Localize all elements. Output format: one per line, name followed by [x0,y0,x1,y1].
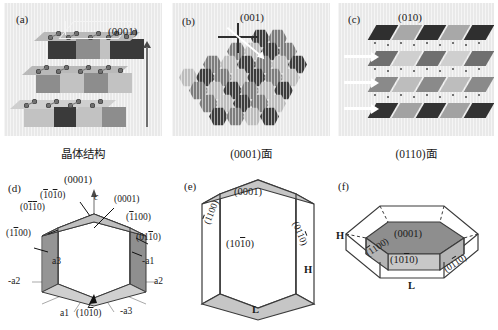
caption-crystal-structure: 晶体结构 [4,145,162,161]
panel-d-label-1010: (1010) [40,190,65,200]
layer-row [372,25,484,40]
panel-e-length-label: L [252,304,259,315]
panel-b-basal-plane: (b) (001) [172,3,330,136]
interlayer-arrow-1 [344,55,372,58]
panel-f-front-face: (1010) [390,254,418,265]
layer-row [372,51,484,66]
layer-row [372,103,484,118]
panel-a-index-label: (0001) [108,25,137,37]
panel-d-axis-neg-a2: -a2 [8,276,20,286]
panel-a-tag: (a) [16,13,28,25]
figure-root: (a) [0,0,498,330]
panel-c-index-label: (010) [398,11,422,23]
panel-d-label-1100-right: (1100) [126,212,151,222]
panel-d-geometry [2,172,180,328]
panel-c-tag: (c) [348,13,360,25]
panel-e-front-face: (1010) [226,238,254,249]
interlayer-arrow-head-2 [371,78,379,88]
unit-cell-edge [65,21,67,35]
caption-basal-plane: (0001)面 [172,145,330,161]
interlayer-arrow-head-1 [371,52,379,62]
panel-f-geometry [332,172,496,328]
c-axis-arrow [146,47,147,127]
panel-d-top-index: (0001) [64,174,92,185]
panel-d-bottom-index: (1010) [76,308,101,318]
panel-d-axis-neg-a3: -a3 [120,306,132,316]
panel-e-top-face: (0001) [234,186,262,197]
panel-b-tag: (b) [182,15,195,27]
panel-f-length-label: L [408,280,415,291]
panel-d-c-axis: c [94,192,98,202]
panel-d-axis-a1: a1 [60,308,69,318]
panel-d-right-index-0001: (0001) [114,194,139,204]
panel-d-axis-a2: a2 [154,276,163,286]
panel-d-label-0110-right: (0110) [136,232,161,242]
panel-d-axis-a3: a3 [52,256,61,266]
interlayer-arrow-head-3 [371,104,379,114]
interlayer-arrow-3 [344,107,372,110]
panel-d-label-1100: (1100) [6,228,31,238]
panel-a-crystal-structure: (a) [4,3,162,136]
panel-f-flat-plate: (f) (000 [332,172,496,328]
panel-b-index-label: (001) [240,11,264,23]
panel-e-height-label: H [304,264,312,275]
panel-c-prismatic-plane: (c) (010) [338,3,494,136]
panel-d-axis-neg-a1: -a1 [142,256,154,266]
panel-d-hexagonal-prism-indices: (d) [2,172,180,328]
layer-row [372,77,484,92]
caption-prismatic-plane: (0110)面 [338,145,494,161]
panel-f-top-face: (0001) [394,228,422,239]
interlayer-arrow-2 [344,81,372,84]
panel-f-height-label: H [336,230,344,241]
panel-d-label-0110: (0110) [20,202,45,212]
panel-e-tall-prism: (e) (0001) (1010) (1100) (0110) H L [180,172,332,328]
